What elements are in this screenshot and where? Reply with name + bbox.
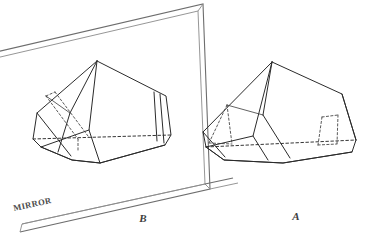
crystal-a-hidden-right-1 [318, 117, 322, 145]
label-a: A [291, 210, 299, 222]
crystal-a [203, 62, 356, 163]
label-b: B [138, 212, 146, 224]
crystal-a-face-front [263, 115, 290, 158]
crystal-a-hidden-right-2 [337, 115, 338, 144]
crystal-a-hidden-right-base [318, 144, 337, 145]
crystal-mirror-figure: MIRROR [0, 0, 371, 234]
mirror-rail-extension-inner [210, 183, 238, 189]
crystal-a-outline [203, 62, 356, 163]
crystal-a-basal-front [206, 147, 352, 163]
crystal-a-hidden-left-2 [209, 105, 227, 143]
crystal-a-hidden-right-top [322, 115, 338, 117]
figure-root: MIRROR [0, 0, 371, 234]
crystal-a-edge-right-shoulder [342, 94, 356, 140]
mirror-panel: MIRROR [0, 4, 238, 232]
crystal-a-face-left-upper [227, 105, 263, 115]
crystal-a-hidden-left-1 [227, 105, 232, 144]
